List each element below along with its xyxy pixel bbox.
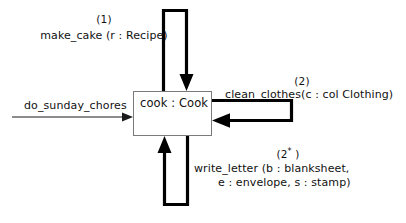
message-arrow-bottom [158, 136, 188, 205]
message-bottom-sequence: (2* ) [208, 148, 368, 160]
message-top-sequence: (1) [44, 13, 164, 25]
message-arrow-top [164, 11, 194, 92]
message-bottom-sequence-suffix: ) [292, 148, 300, 160]
message-top-label: make_cake (r : Recipe) [29, 30, 179, 43]
entry-arrow [12, 112, 133, 121]
object-label: cook : Cook [140, 96, 208, 110]
entry-message-label: do_sunday_chores [24, 100, 127, 113]
message-bottom-label-line1: write_letter (b : blanksheet, [194, 163, 349, 176]
message-right-sequence: (2) [222, 75, 382, 87]
diagram-canvas: cook : Cook do_sunday_chores (1) make_ca… [0, 0, 406, 223]
message-bottom-sequence-prefix: (2 [276, 148, 287, 160]
message-bottom-label-line2: e : envelope, s : stamp) [218, 177, 351, 190]
message-arrow-right [212, 101, 292, 128]
message-right-label: clean_clothes(c : col Clothing) [225, 89, 393, 102]
